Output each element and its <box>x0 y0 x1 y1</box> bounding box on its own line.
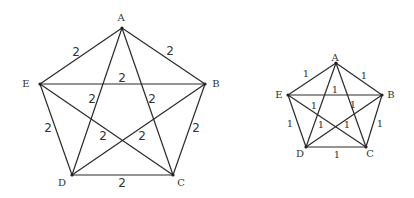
edge-weight-label: 2 <box>44 121 52 135</box>
vertex-label: A <box>330 52 339 63</box>
vertex-label: A <box>116 12 125 23</box>
edge-weight-label: 2 <box>72 45 80 59</box>
edge-AE <box>288 63 336 95</box>
edge-weight-label: 2 <box>166 44 174 58</box>
small-complete-graph-k5: 1111111111ABCDE <box>275 52 394 160</box>
vertex-dot <box>304 145 307 148</box>
vertex-label: E <box>275 89 282 100</box>
edge-weight-label: 1 <box>311 100 317 111</box>
edge-weight-label: 1 <box>350 99 356 110</box>
edge-weight-label: 1 <box>377 118 383 129</box>
edge-AB <box>122 28 205 84</box>
edge-weight-label: 1 <box>344 119 350 130</box>
edge-weight-label: 2 <box>88 92 96 106</box>
edge-AB <box>336 63 382 95</box>
vertex-label: E <box>22 78 29 89</box>
edge-weight-label: 1 <box>332 84 338 95</box>
vertex-dot <box>70 173 73 176</box>
edge-weight-label: 2 <box>192 121 200 135</box>
vertex-dot <box>120 26 123 29</box>
edge-weight-label: 2 <box>99 129 107 143</box>
edge-weight-label: 1 <box>287 118 293 129</box>
vertex-label: B <box>212 78 219 89</box>
edge-weight-label: 1 <box>303 68 309 79</box>
edge-weight-label: 2 <box>138 129 146 143</box>
vertex-label: C <box>366 148 374 159</box>
edge-weight-label: 1 <box>361 70 367 81</box>
vertex-label: C <box>177 177 185 188</box>
edge-weight-label: 2 <box>148 92 156 106</box>
vertex-dot <box>380 93 383 96</box>
edge-weight-label: 1 <box>318 119 324 130</box>
vertex-dot <box>203 82 206 85</box>
vertex-label: B <box>387 89 394 100</box>
edge-BC <box>173 84 205 175</box>
vertex-label: D <box>296 148 304 159</box>
edge-weight-label: 1 <box>334 149 340 160</box>
vertex-dot <box>171 173 174 176</box>
vertex-dot <box>38 82 41 85</box>
large-complete-graph-k5: 2222222222ABCDE <box>22 12 219 190</box>
vertex-label: D <box>58 177 66 188</box>
vertex-dot <box>286 93 289 96</box>
edge-AE <box>40 28 122 84</box>
graph-diagram: 2222222222ABCDE 1111111111ABCDE <box>0 0 414 198</box>
edge-weight-label: 2 <box>118 71 126 85</box>
edge-weight-label: 2 <box>118 176 126 190</box>
